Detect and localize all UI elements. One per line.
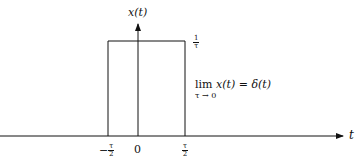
tick-zero: 0 <box>134 143 141 156</box>
pulse-rectangle <box>108 41 185 136</box>
x-axis-label: t <box>349 128 354 142</box>
limit-equation: lim x(t) = δ(t) <box>195 78 271 91</box>
limit-subscript: τ → 0 <box>195 91 216 100</box>
tick-pos-half-tau: τ2 <box>182 143 188 158</box>
rect-pulse-diagram <box>0 0 361 166</box>
height-label: 1τ <box>193 35 199 50</box>
y-axis-label: x(t) <box>128 6 147 19</box>
tick-neg-half-tau: −τ2 <box>99 143 114 158</box>
